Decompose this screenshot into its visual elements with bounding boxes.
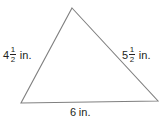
- right-side-length-label: 5 1 2 in.: [122, 46, 151, 64]
- left-side-unit: in.: [20, 50, 32, 61]
- bottom-side-whole-number: 6: [70, 107, 76, 118]
- left-side-length-label: 4 1 2 in.: [3, 46, 32, 64]
- bottom-side-unit: in.: [79, 107, 91, 118]
- right-side-whole-number: 5: [122, 50, 128, 61]
- right-side-fraction: 1 2: [129, 46, 136, 64]
- left-side-denominator: 2: [10, 55, 17, 64]
- left-side-numerator: 1: [10, 46, 17, 55]
- bottom-side-length-label: 6 in.: [70, 107, 91, 118]
- right-side-denominator: 2: [129, 55, 136, 64]
- triangle-figure: 4 1 2 in. 5 1 2 in. 6 in.: [0, 0, 166, 128]
- left-side-whole-number: 4: [3, 50, 9, 61]
- left-side-fraction: 1 2: [10, 46, 17, 64]
- right-side-unit: in.: [139, 50, 151, 61]
- right-side-numerator: 1: [129, 46, 136, 55]
